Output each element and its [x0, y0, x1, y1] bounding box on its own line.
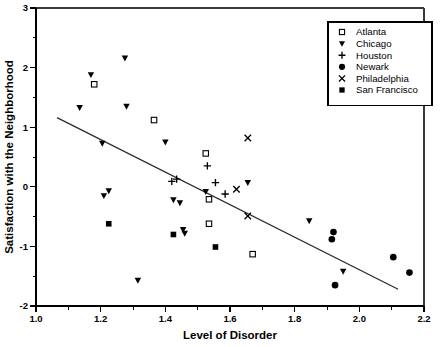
legend-marker-filled-circle [339, 64, 345, 70]
x-axis-title: Level of Disorder [183, 329, 277, 341]
y-tick-label: -2 [20, 300, 28, 311]
x-tick-label: 1.8 [288, 313, 301, 324]
data-point-open-square [206, 197, 211, 202]
data-point-filled-square [171, 232, 177, 238]
data-point-filled-circle [330, 229, 337, 236]
x-tick-label: 1.2 [94, 313, 107, 324]
data-point-filled-circle [332, 282, 339, 289]
legend-marker-filled-square [339, 87, 344, 92]
x-tick-label: 1.4 [159, 313, 173, 324]
y-tick-label: 3 [23, 2, 28, 13]
legend-marker-open-square [339, 29, 344, 34]
y-tick-label: -1 [20, 241, 29, 252]
data-point-open-square [151, 117, 156, 122]
x-tick-label: 1.6 [223, 313, 236, 324]
data-point-filled-circle [406, 269, 413, 276]
x-tick-label: 2.0 [353, 313, 366, 324]
legend-label-chicago: Chicago [356, 38, 392, 49]
data-point-open-square [206, 221, 211, 226]
scatter-plot-figure: 1.01.21.41.61.82.02.2 3210-1-2 AtlantaCh… [0, 0, 440, 347]
y-tick-label: 1 [23, 122, 29, 133]
legend-label-newark: Newark [356, 61, 389, 72]
data-point-filled-circle [390, 254, 397, 261]
legend-label-san-francisco: San Francisco [356, 84, 418, 95]
legend-label-houston: Houston [356, 50, 392, 61]
data-point-filled-square [106, 221, 112, 227]
legend-label-philadelphia: Philadelphia [356, 73, 409, 84]
y-axis-title: Satisfaction with the Neighborhood [3, 60, 15, 254]
x-tick-label: 1.0 [29, 313, 42, 324]
x-tick-label: 2.2 [417, 313, 430, 324]
legend: AtlantaChicagoHoustonNewarkPhiladelphiaS… [328, 22, 432, 106]
legend-label-atlanta: Atlanta [356, 26, 387, 37]
data-point-filled-circle [329, 236, 336, 243]
data-point-filled-square [213, 244, 219, 250]
data-point-open-square [91, 82, 96, 87]
y-tick-label: 2 [23, 62, 28, 73]
data-point-open-square [203, 151, 208, 156]
y-tick-label: 0 [23, 181, 28, 192]
chart-canvas: 1.01.21.41.61.82.02.2 3210-1-2 AtlantaCh… [0, 0, 440, 347]
data-point-open-square [250, 251, 255, 256]
